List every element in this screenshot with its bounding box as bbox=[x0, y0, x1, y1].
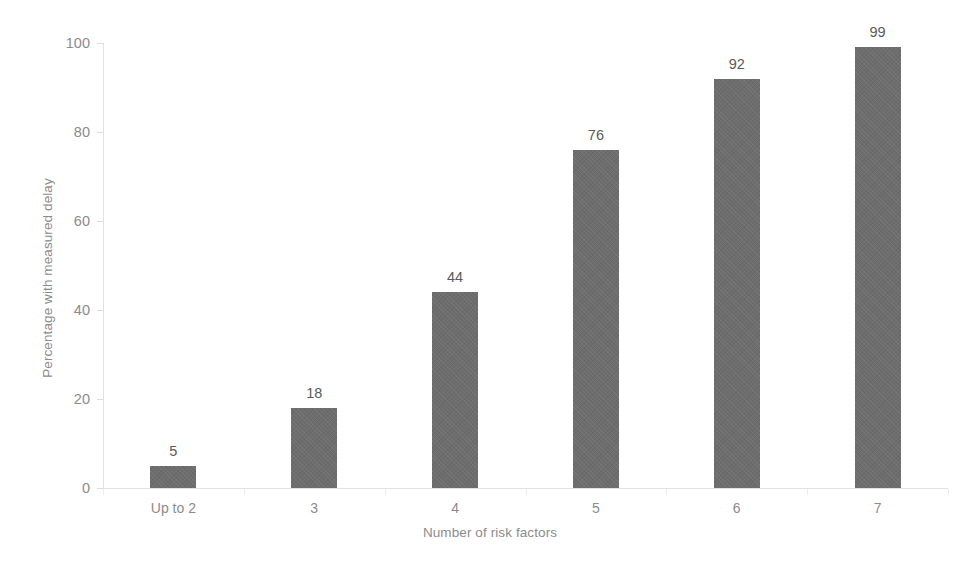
x-axis-category-label: 6 bbox=[733, 500, 741, 516]
x-axis-title: Number of risk factors bbox=[0, 525, 980, 540]
bar-group: 18 bbox=[244, 43, 385, 488]
bar-group: 92 bbox=[666, 43, 807, 488]
bar[interactable] bbox=[291, 408, 337, 488]
bar[interactable] bbox=[714, 79, 760, 488]
x-axis-tick-mark bbox=[103, 489, 104, 495]
bar[interactable] bbox=[855, 47, 901, 488]
x-axis-tick-mark bbox=[385, 489, 386, 495]
bar-group: 99 bbox=[807, 43, 948, 488]
bar[interactable] bbox=[573, 150, 619, 488]
x-axis-category-label: 4 bbox=[451, 500, 459, 516]
x-axis-category-label: 7 bbox=[874, 500, 882, 516]
x-axis-category-label: Up to 2 bbox=[151, 500, 196, 516]
bar-group: 44 bbox=[385, 43, 526, 488]
bar-value-label: 92 bbox=[729, 56, 745, 72]
bar-value-label: 5 bbox=[169, 443, 177, 459]
bar-chart: Percentage with measured delay Number of… bbox=[0, 0, 980, 574]
plot-area: 51844769299 bbox=[103, 43, 948, 488]
x-axis-tick-mark bbox=[948, 489, 949, 495]
y-axis-tick-label: 40 bbox=[16, 302, 90, 318]
bar-group: 5 bbox=[103, 43, 244, 488]
x-axis-tick-mark bbox=[244, 489, 245, 495]
bar[interactable] bbox=[432, 292, 478, 488]
x-axis-category-label: 5 bbox=[592, 500, 600, 516]
x-axis-tick-mark bbox=[807, 489, 808, 495]
bar-value-label: 76 bbox=[588, 127, 604, 143]
x-axis-tick-mark bbox=[526, 489, 527, 495]
bar-value-label: 99 bbox=[869, 24, 885, 40]
y-axis-tick-label: 100 bbox=[16, 35, 90, 51]
bar-value-label: 18 bbox=[306, 385, 322, 401]
bar[interactable] bbox=[150, 466, 196, 488]
y-axis-tick-label: 80 bbox=[16, 124, 90, 140]
y-axis-tick-label: 20 bbox=[16, 391, 90, 407]
x-axis-tick-mark bbox=[666, 489, 667, 495]
y-axis-tick-label: 60 bbox=[16, 213, 90, 229]
bar-value-label: 44 bbox=[447, 269, 463, 285]
bar-group: 76 bbox=[526, 43, 667, 488]
y-axis-tick-label: 0 bbox=[16, 480, 90, 496]
x-axis-category-label: 3 bbox=[310, 500, 318, 516]
